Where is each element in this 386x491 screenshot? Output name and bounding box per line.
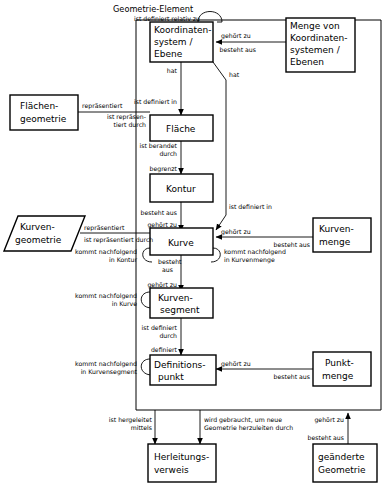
edge-label-ist-definiert-durch-0: ist definiert: [142, 324, 178, 331]
entity-menge-line-0: Menge von: [290, 21, 340, 31]
edge-label-kommt-nachfolgend-in-kontur-0: kommt nachfolgend: [75, 248, 137, 256]
entity-punktmenge-line-0: Punkt-: [325, 358, 354, 368]
edge-label-kommt-nachfolgend-in-kurvenmenge-0: kommt nachfolgend: [224, 248, 286, 256]
edge-label-kommt-nachfolgend-in-kontur-1: in Kontur: [109, 256, 137, 263]
edge-label-ist-repraesentiert-durch-kurve: ist repräsentiert durch: [84, 236, 153, 244]
entity-flaechengeometrie-line-0: Flächen-: [20, 101, 58, 111]
edge-label-kommt-nachfolgend-in-kurvenmenge-1: in Kurvenmenge: [224, 256, 275, 264]
edge-label-repraesentiert-kurve: repräsentiert: [84, 224, 125, 232]
entity-kurvenmenge-line-1: menge: [319, 237, 351, 247]
edge-label-hat-kurve: hat: [229, 71, 240, 78]
entity-flaechengeometrie-line-1: geometrie: [20, 114, 67, 124]
edge-label-begrenzt: begrenzt: [150, 165, 178, 173]
entity-menge-line-2: systemen /: [290, 45, 341, 55]
entity-menge-line-1: Koordinaten-: [290, 33, 347, 43]
edge-label-ist-definiert-relativ-zu: ist definiert relativ zu: [134, 15, 200, 22]
edge-label-repraesentiert-flaeche: repräsentiert: [82, 102, 123, 110]
entity-kurve-line-0: Kurve: [168, 238, 194, 248]
entity-herleitungsverweis-line-0: Herleitungs-: [154, 452, 209, 462]
edge-label-definiert: definiert: [151, 346, 178, 353]
entity-kurvensegment[interactable]: Kurven- segment: [150, 288, 213, 318]
frame-title: Geometrie-Element: [113, 4, 194, 14]
diagram-canvas: Koordinaten- system / Ebene Menge von Ko…: [0, 0, 386, 491]
edge-label-wird-gebraucht-1: Geometrie herzuleiten durch: [204, 424, 293, 431]
entity-flaechengeometrie[interactable]: Flächen- geometrie: [10, 95, 78, 130]
entity-koordinatensystem-line-1: system /: [154, 37, 193, 47]
entity-kurvengeometrie[interactable]: Kurven- geometrie: [4, 216, 85, 251]
frame-title-label: Geometrie-Element: [113, 4, 194, 14]
edge-label-ist-berandet-durch-1: durch: [159, 150, 177, 157]
edge-label-kommt-nachfolgend-in-kurve-1: in Kurve: [112, 300, 137, 307]
edge-label-ist-definiert-in-kurve: ist definiert in: [229, 203, 272, 210]
edge-label-besteht-aus-ks: besteht aus: [220, 46, 256, 53]
entity-koordinatensystem[interactable]: Koordinaten- system / Ebene: [150, 22, 213, 62]
entity-kurvenmenge-line-0: Kurven-: [319, 224, 354, 234]
edge-label-gehoert-zu-ks: gehört zu: [221, 32, 251, 40]
entity-geaenderte-line-0: geänderte: [318, 452, 365, 462]
entity-menge-line-3: Ebenen: [290, 57, 324, 67]
entity-flaeche[interactable]: Fläche: [150, 115, 213, 141]
edge-label-gehoert-zu-kurvensegment: gehört zu: [147, 281, 177, 289]
edge-label-ist-repraesentiert-durch-flaeche-0: ist repräsen-: [107, 113, 146, 121]
edge-label-ist-hergeleitet-mittels-1: mittels: [131, 424, 152, 431]
entity-geaenderte-line-1: Geometrie: [318, 465, 366, 475]
edge-label-kommt-nachfolgend-in-kurvensegment-1: in Kurvensegment: [81, 368, 138, 376]
edge-label-kommt-nachfolgend-in-kurve-0: kommt nachfolgend: [75, 292, 137, 300]
edge-label-besteht-aus-kontur: besteht aus: [141, 209, 177, 216]
edge-label-besteht-aus-punktmenge: besteht aus: [274, 373, 310, 380]
entity-kurvensegment-line-1: segment: [160, 305, 200, 315]
entity-relationship-diagram: Koordinaten- system / Ebene Menge von Ko…: [0, 0, 386, 491]
entity-herleitungsverweis[interactable]: Herleitungs- verweis: [148, 444, 216, 482]
entity-kurvengeometrie-line-0: Kurven-: [20, 222, 55, 232]
edge-label-besteht-aus-kurvenmenge: besteht aus: [274, 241, 310, 248]
edge-label-gehoert-zu-kurvenmenge: gehört zu: [221, 228, 251, 236]
edge-label-ist-repraesentiert-durch-flaeche-1: tiert durch: [114, 121, 147, 128]
entity-definitionspunkt[interactable]: Definitions- punkt: [150, 355, 216, 385]
entity-kontur-line-0: Kontur: [166, 184, 196, 194]
edge-label-ist-hergeleitet-mittels-0: ist hergeleitet: [109, 416, 153, 424]
edge-label-gehoert-zu-punktmenge: gehört zu: [221, 360, 251, 368]
entity-menge-koordinatensysteme[interactable]: Menge von Koordinaten- systemen / Ebenen: [286, 18, 355, 72]
edge-label-besteht-aus-geaenderte: besteht aus: [308, 434, 344, 441]
entity-punktmenge-line-1: menge: [322, 371, 354, 381]
edge-label-besteht-aus-kurve-0: besteht: [158, 258, 182, 265]
entity-kurvensegment-line-0: Kurven-: [158, 293, 193, 303]
entity-koordinatensystem-line-2: Ebene: [154, 49, 183, 59]
edge-label-hat-flaeche: hat: [167, 67, 178, 74]
edge-label-gehoert-zu-kurve: gehört zu: [147, 221, 177, 229]
edge-label-ist-definiert-durch-1: durch: [159, 332, 177, 339]
entity-kurve[interactable]: Kurve: [150, 228, 213, 255]
entity-definitionspunkt-line-1: punkt: [158, 372, 184, 382]
edge-label-kommt-nachfolgend-in-kurvensegment-0: kommt nachfolgend: [75, 360, 137, 368]
edge-label-besteht-aus-kurve-1: aus: [162, 266, 173, 273]
edge-label-gehoert-zu-geaenderte: gehört zu: [314, 416, 344, 424]
entity-kontur[interactable]: Kontur: [150, 174, 213, 202]
entity-definitionspunkt-line-0: Definitions-: [154, 360, 206, 370]
entity-kurvengeometrie-line-1: geometrie: [15, 235, 62, 245]
edge-label-ist-berandet-durch-0: ist berandet: [140, 142, 178, 149]
entity-kurvenmenge[interactable]: Kurven- menge: [313, 218, 371, 252]
entity-flaeche-line-0: Fläche: [166, 124, 196, 134]
entity-geaenderte-geometrie[interactable]: geänderte Geometrie: [313, 444, 377, 482]
entity-koordinatensystem-line-0: Koordinaten-: [154, 25, 211, 35]
edge-koordinatensystem-kurve: [213, 62, 226, 230]
entity-herleitungsverweis-line-1: verweis: [154, 465, 189, 475]
edge-label-ist-definiert-in-flaeche: ist definiert in: [134, 98, 177, 105]
entity-punktmenge[interactable]: Punkt- menge: [313, 352, 371, 386]
edge-label-wird-gebraucht-0: wird gebraucht, um neue: [204, 416, 282, 424]
